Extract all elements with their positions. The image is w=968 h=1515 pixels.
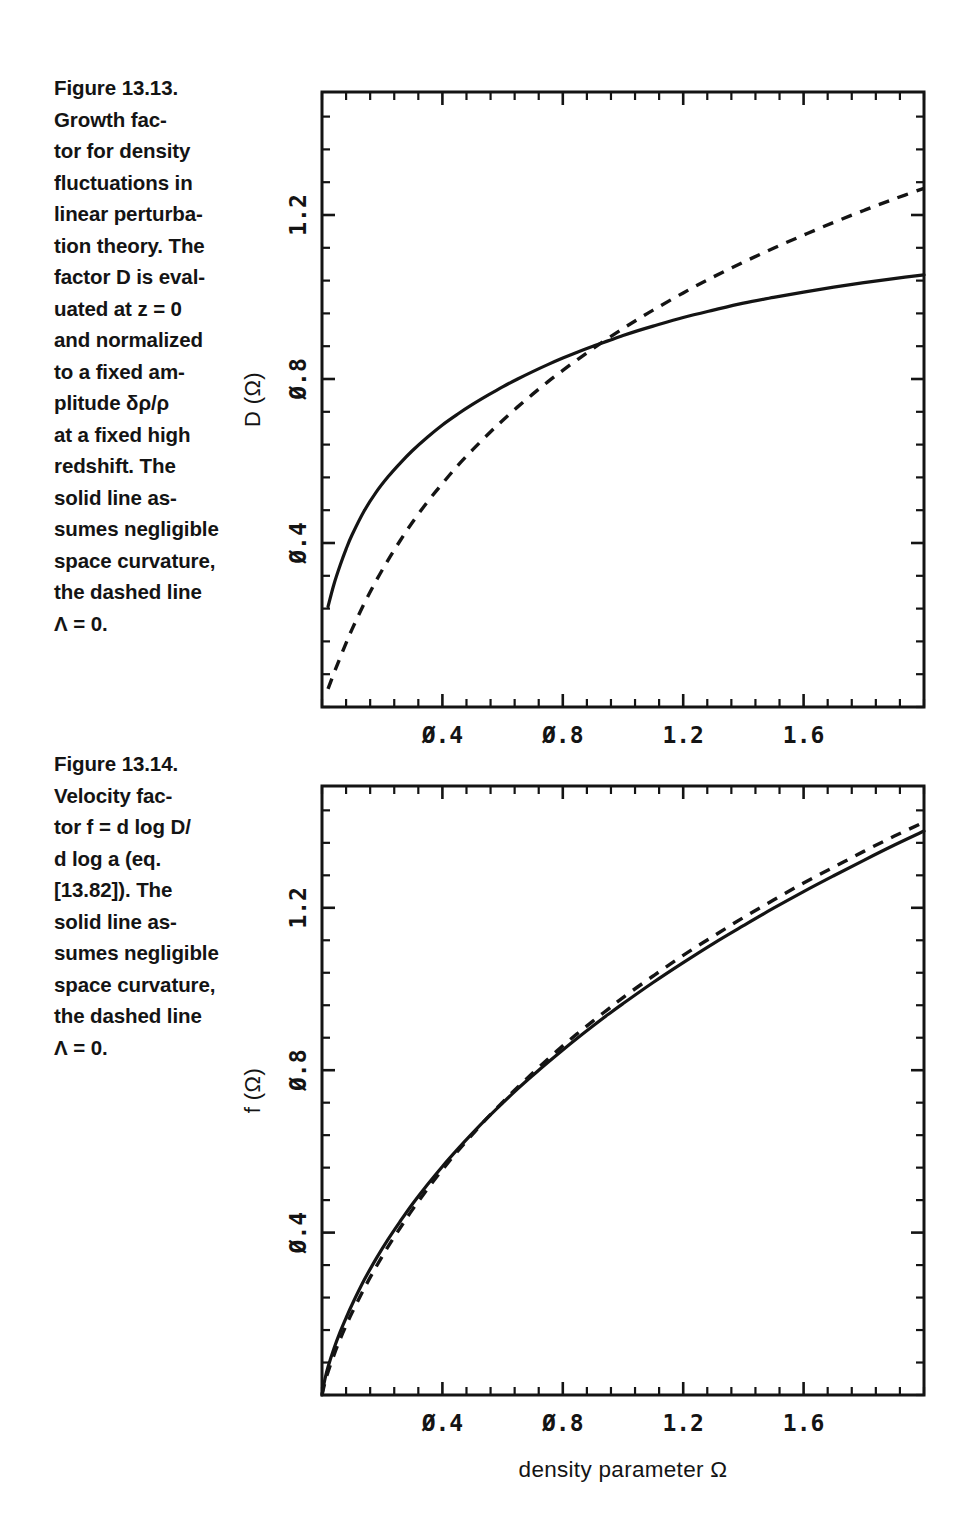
velocity-factor-x-tick-label: Ø.8 bbox=[541, 1410, 584, 1436]
figure-13-14-plot: Ø.4Ø.81.21.6Ø.4Ø.81.2f (Ω)density parame… bbox=[238, 756, 950, 1501]
figure-13-13-plot: Ø.4Ø.81.21.6Ø.4Ø.81.2D (Ω)density parame… bbox=[238, 60, 950, 760]
growth-factor-y-axis-label: D (Ω) bbox=[240, 372, 265, 427]
growth-factor-curve-solid bbox=[328, 275, 924, 607]
velocity-factor-x-tick-label: Ø.4 bbox=[421, 1410, 464, 1436]
growth-factor-chart: Ø.4Ø.81.21.6Ø.4Ø.81.2D (Ω)density parame… bbox=[238, 60, 950, 760]
growth-factor-x-tick-label: 1.2 bbox=[662, 722, 704, 748]
growth-factor-y-tick-label: 1.2 bbox=[285, 194, 311, 236]
growth-factor-x-tick-label: Ø.8 bbox=[541, 722, 584, 748]
velocity-factor-x-tick-label: 1.6 bbox=[783, 1410, 825, 1436]
velocity-factor-y-tick-label: 1.2 bbox=[285, 887, 311, 929]
growth-factor-x-tick-label: 1.6 bbox=[783, 722, 825, 748]
velocity-factor-y-tick-label: Ø.8 bbox=[285, 1049, 311, 1092]
velocity-factor-x-tick-label: 1.2 bbox=[662, 1410, 704, 1436]
figure-page: Figure 13.13. Growth fac- tor for densit… bbox=[0, 0, 968, 1515]
growth-factor-y-tick-label: Ø.8 bbox=[285, 358, 311, 401]
velocity-factor-chart: Ø.4Ø.81.21.6Ø.4Ø.81.2f (Ω)density parame… bbox=[238, 756, 950, 1501]
growth-factor-x-tick-label: Ø.4 bbox=[421, 722, 464, 748]
velocity-factor-y-axis-label: f (Ω) bbox=[240, 1068, 265, 1113]
growth-factor-y-tick-label: Ø.4 bbox=[285, 522, 311, 565]
velocity-factor-curve-dashed bbox=[322, 822, 924, 1395]
velocity-factor-panel: Ø.4Ø.81.21.6Ø.4Ø.81.2f (Ω)density parame… bbox=[240, 786, 924, 1482]
growth-factor-panel: Ø.4Ø.81.21.6Ø.4Ø.81.2D (Ω)density parame… bbox=[240, 92, 924, 760]
growth-factor-plot-frame bbox=[322, 92, 924, 707]
growth-factor-curve-dashed bbox=[328, 188, 924, 689]
velocity-factor-curve-solid bbox=[322, 831, 924, 1395]
velocity-factor-y-tick-label: Ø.4 bbox=[285, 1212, 311, 1255]
velocity-factor-x-axis-label: density parameter Ω bbox=[519, 1457, 728, 1482]
